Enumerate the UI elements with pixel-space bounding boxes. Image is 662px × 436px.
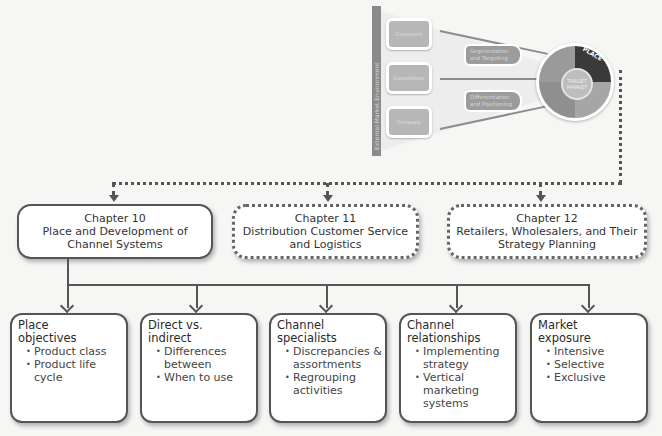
target-market-core: TARGET MARKET [561, 68, 593, 100]
thumb-box-company: Company [386, 106, 432, 138]
dotted-connector-horizontal [112, 182, 622, 185]
bullet-item: Regrouping activities [285, 371, 373, 397]
arrow-down-icon [323, 195, 333, 202]
chapter-11-box: Chapter 11 Distribution Customer Service… [232, 204, 419, 259]
arrow-down-icon [189, 299, 203, 313]
environment-label: External Market Environment [373, 20, 380, 150]
arrow-down-icon [449, 299, 463, 313]
topic-title: Channel specialists [277, 319, 352, 345]
topic-bullets: Product class Product life cycle [18, 345, 120, 384]
topic-bullets: Discrepancies & assortments Regrouping a… [277, 345, 379, 397]
bullet-item: When to use [156, 371, 250, 384]
topic-bullets: Intensive Selective Exclusive [538, 345, 640, 384]
bullet-item: Selective [546, 358, 640, 371]
bullet-item: Product class [26, 345, 120, 358]
chapter-number: Chapter 11 [235, 212, 416, 225]
bullet-item: Differences between [156, 345, 239, 371]
chapter-12-box: Chapter 12 Retailers, Wholesalers, and T… [447, 204, 647, 259]
bullet-item: Implementing strategy [415, 345, 508, 371]
thumb-box-competitors: Competitors [386, 62, 432, 94]
topic-title: Place objectives [18, 319, 78, 345]
chapter-title: Distribution Customer Service and Logist… [235, 225, 416, 251]
arrow-down-icon [581, 299, 595, 313]
chapter-number: Chapter 10 [19, 212, 211, 225]
topic-channel-relationships: Channel relationships Implementing strat… [399, 313, 517, 423]
topic-bullets: Implementing strategy Vertical marketing… [407, 345, 509, 410]
arrow-down-icon [319, 299, 333, 313]
arrow-down-icon [60, 299, 74, 313]
dotted-drop-ch11 [326, 183, 329, 195]
bullet-item: Intensive [546, 345, 640, 358]
chapter-title: Retailers, Wholesalers, and Their Strate… [450, 225, 644, 251]
topic-channel-specialists: Channel specialists Discrepancies & asso… [269, 313, 387, 423]
topic-direct-vs-indirect: Direct vs. indirect Differences between … [140, 313, 258, 423]
bullet-item: Discrepancies & assortments [285, 345, 383, 371]
arrow-down-icon [109, 195, 119, 202]
arrow-down-icon [536, 195, 546, 202]
topic-title: Market exposure [538, 319, 608, 345]
chapter-number: Chapter 12 [450, 212, 644, 225]
chapter-title: Place and Development of Channel Systems [19, 225, 211, 251]
topic-title: Channel relationships [407, 319, 487, 345]
dotted-drop-ch12 [539, 183, 542, 195]
dotted-connector-vertical [619, 70, 622, 183]
chapter-10-box: Chapter 10 Place and Development of Chan… [17, 204, 213, 259]
connector-trunk [67, 259, 69, 285]
topic-market-exposure: Market exposure Intensive Selective Excl… [530, 313, 648, 423]
thumb-box-segmentation: Segmentation and Targeting [464, 44, 522, 66]
topic-title: Direct vs. indirect [148, 319, 228, 345]
connector-bus [67, 284, 590, 286]
thumb-arrow-middle [440, 78, 540, 80]
dotted-drop-ch10 [112, 183, 115, 195]
bullet-item: Exclusive [546, 371, 640, 384]
thumb-box-differentiation: Differentiation and Positioning [464, 90, 522, 112]
topic-bullets: Differences between When to use [148, 345, 250, 384]
topic-place-objectives: Place objectives Product class Product l… [10, 313, 128, 423]
bullet-item: Product life cycle [26, 358, 104, 384]
thumb-box-customers: Customers [386, 18, 432, 50]
bullet-item: Vertical marketing systems [415, 371, 493, 410]
